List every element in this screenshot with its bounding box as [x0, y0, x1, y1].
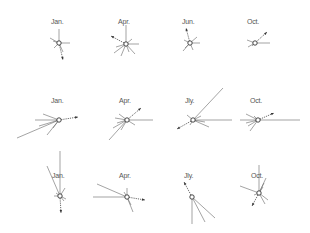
month-label: Apr. — [119, 97, 131, 104]
arrow-head-icon — [61, 57, 63, 60]
arrow-head-icon — [60, 210, 62, 213]
ray-line — [47, 166, 60, 196]
star-glyph-jly-r1 — [177, 88, 232, 129]
month-label: Jan. — [52, 172, 64, 179]
ray-line — [193, 88, 223, 120]
hub-circle-icon — [124, 42, 128, 46]
star-glyph-oct-r1 — [240, 113, 300, 131]
hub-circle-icon — [253, 41, 257, 45]
ray-line — [192, 197, 205, 222]
hub-circle-icon — [190, 195, 194, 199]
star-glyph-diagram — [0, 0, 310, 233]
arrow-head-icon — [111, 36, 114, 38]
month-label: Jun. — [182, 18, 194, 25]
star-glyph-apr-r2 — [93, 184, 145, 212]
hub-circle-icon — [188, 41, 192, 45]
ray-line — [17, 120, 59, 138]
star-glyph-apr-r0 — [111, 25, 139, 56]
hub-circle-icon — [57, 118, 61, 122]
arrow-head-icon — [252, 203, 254, 206]
month-label: Oct. — [250, 97, 262, 104]
ray-line — [97, 184, 127, 197]
arrow-head-icon — [271, 113, 274, 115]
month-label: Jan. — [51, 18, 63, 25]
star-glyph-oct-r0 — [247, 32, 270, 47]
arrow-head-icon — [186, 28, 188, 31]
hub-circle-icon — [256, 118, 260, 122]
hub-circle-icon — [125, 195, 129, 199]
star-glyph-jun-r0 — [183, 28, 200, 51]
month-label: Oct. — [247, 18, 259, 25]
star-glyph-jan-r2 — [47, 151, 66, 213]
arrow-head-icon — [264, 32, 267, 35]
hub-circle-icon — [125, 118, 129, 122]
hub-circle-icon — [57, 41, 61, 45]
ray-line — [240, 186, 259, 193]
star-glyph-apr-r1 — [109, 108, 153, 140]
arrow-head-icon — [177, 126, 180, 129]
month-label: Jly. — [184, 172, 193, 179]
star-glyph-jly-r2 — [184, 182, 215, 224]
month-label: Jly. — [185, 97, 194, 104]
month-label: Apr. — [118, 18, 130, 25]
star-glyph-jan-r1 — [17, 114, 78, 138]
ray-line — [39, 120, 59, 126]
month-label: Apr. — [119, 172, 131, 179]
arrow-head-icon — [142, 198, 145, 200]
hub-circle-icon — [58, 194, 62, 198]
month-label: Oct. — [251, 172, 263, 179]
arrow-head-icon — [184, 182, 186, 185]
arrow-head-icon — [138, 108, 141, 111]
star-glyph-jan-r0 — [50, 29, 70, 60]
month-label: Jan. — [51, 97, 63, 104]
hub-circle-icon — [257, 191, 261, 195]
hub-circle-icon — [191, 118, 195, 122]
ray-line — [192, 197, 215, 218]
